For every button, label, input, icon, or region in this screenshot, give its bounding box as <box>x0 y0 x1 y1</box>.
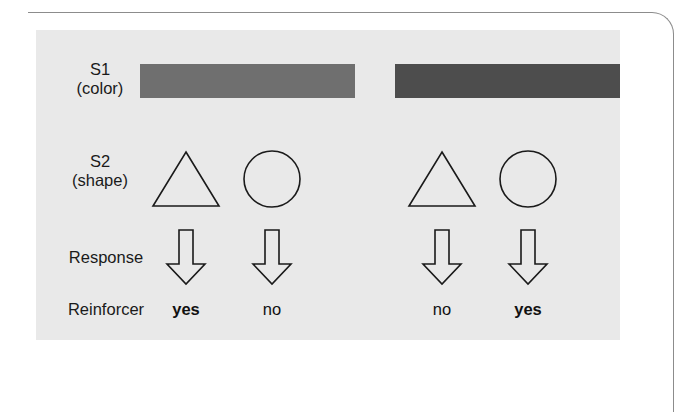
row-label-reinforcer-main: Reinforcer <box>68 300 144 318</box>
down-arrow-outline-icon <box>164 228 208 286</box>
row-label-s2-sub: (shape) <box>36 171 164 190</box>
figure-panel: S1 (color) S2 (shape) Response Reinforce… <box>36 30 620 340</box>
reinforcer-value-1: yes <box>150 300 222 319</box>
circle-outline-icon <box>236 148 308 210</box>
s1-color-bar-left <box>140 64 355 98</box>
down-arrow-outline-icon <box>250 228 294 286</box>
circle-outline-icon <box>492 148 564 210</box>
response-arrow-cell-2 <box>236 228 308 290</box>
triangle-outline-icon <box>150 148 222 210</box>
row-label-response-main: Response <box>69 248 143 266</box>
reinforcer-value-2: no <box>236 300 308 319</box>
down-arrow-outline-icon <box>506 228 550 286</box>
response-arrow-cell-1 <box>150 228 222 290</box>
down-arrow-outline-icon <box>420 228 464 286</box>
triangle-outline-icon <box>406 148 478 210</box>
s2-shape-cell-2 <box>236 148 308 210</box>
response-arrow-cell-3 <box>406 228 478 290</box>
s2-shape-cell-1 <box>150 148 222 210</box>
reinforcer-value-4: yes <box>492 300 564 319</box>
row-label-s2: S2 (shape) <box>36 152 164 190</box>
s2-shape-cell-4 <box>492 148 564 210</box>
row-label-s2-main: S2 <box>90 152 110 170</box>
s1-color-bar-right <box>395 64 620 98</box>
s2-shape-cell-3 <box>406 148 478 210</box>
response-arrow-cell-4 <box>492 228 564 290</box>
reinforcer-value-3: no <box>406 300 478 319</box>
row-label-s1-main: S1 <box>90 60 110 78</box>
